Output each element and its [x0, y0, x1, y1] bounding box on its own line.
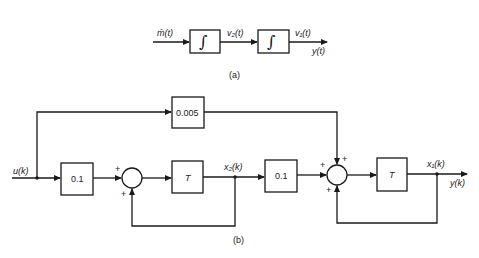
label-y-k: y(k) — [449, 178, 465, 188]
input-label-u: u(k) — [13, 166, 29, 176]
feedforward-line — [37, 112, 171, 178]
sum1-sign-left: + — [115, 164, 120, 174]
block-diagrams: m̄(t) ∫ v₂(t) ∫ v₁(t) y(t) (a) u(k) 0.00… — [0, 0, 479, 258]
gain-mid-label: 0.1 — [275, 171, 288, 181]
integral-icon: ∫ — [267, 32, 275, 51]
sum2-sign-left: + — [320, 160, 325, 170]
diagram-b: u(k) 0.005 0.1 + + T x₂(k) 0.1 + + + — [12, 97, 467, 245]
diagram-a: m̄(t) ∫ v₂(t) ∫ v₁(t) y(t) (a) — [153, 28, 327, 80]
summing-junction-2 — [327, 165, 347, 185]
label-v1: v₁(t) — [295, 28, 311, 38]
integral-icon: ∫ — [199, 32, 207, 51]
caption-b: (b) — [233, 235, 244, 245]
label-x1: x₁(k) — [426, 159, 445, 169]
label-v2: v₂(t) — [227, 28, 243, 38]
feedforward-to-sum2 — [204, 112, 337, 164]
label-y-t: y(t) — [311, 46, 325, 56]
input-label-m: m̄(t) — [157, 28, 173, 38]
caption-a: (a) — [229, 70, 240, 80]
gain-in-label: 0.1 — [71, 174, 84, 184]
sum2-sign-top: + — [342, 154, 347, 164]
sum1-sign-bottom: + — [121, 189, 126, 199]
gain-0005-label: 0.005 — [176, 108, 199, 118]
label-x2: x₂(k) — [223, 162, 242, 172]
sum2-sign-bottom: + — [326, 185, 331, 195]
summing-junction-1 — [122, 168, 142, 188]
